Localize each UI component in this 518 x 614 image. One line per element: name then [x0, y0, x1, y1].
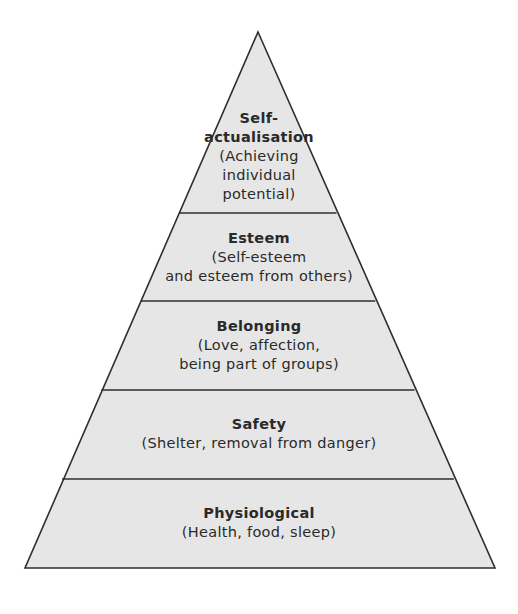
tier-title: Self- actualisation — [0, 109, 518, 147]
tier-title: Belonging — [0, 317, 518, 336]
tier-safety: Safety (Shelter, removal from danger) — [0, 415, 518, 453]
tier-description: (Health, food, sleep) — [0, 523, 518, 542]
tier-description: (Self-esteem and esteem from others) — [0, 248, 518, 286]
tier-belonging: Belonging (Love, affection, being part o… — [0, 317, 518, 374]
tier-description: (Love, affection, being part of groups) — [0, 336, 518, 374]
tier-physiological: Physiological (Health, food, sleep) — [0, 504, 518, 542]
tier-self-actualisation: Self- actualisation (Achieving individua… — [0, 109, 518, 204]
tier-title: Physiological — [0, 504, 518, 523]
tier-title: Esteem — [0, 229, 518, 248]
tier-description: (Shelter, removal from danger) — [0, 434, 518, 453]
tier-description: (Achieving individual potential) — [0, 147, 518, 204]
tier-title: Safety — [0, 415, 518, 434]
tier-esteem: Esteem (Self-esteem and esteem from othe… — [0, 229, 518, 286]
